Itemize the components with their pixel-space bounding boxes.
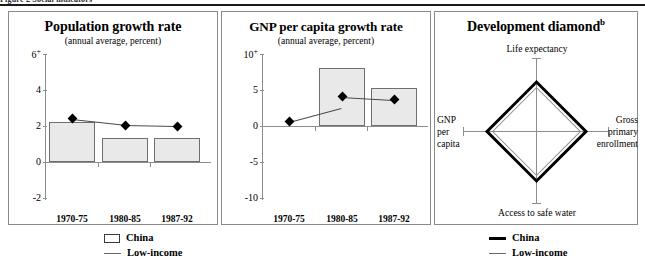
y-label-10: 10+: [230, 50, 258, 60]
y-axis-line-gnp: [262, 54, 263, 200]
x-label-1980-85: 1980-85: [98, 214, 152, 224]
y-label-4: 4: [15, 85, 41, 95]
bar-china-1987-92: [154, 138, 200, 162]
diamond-label-gross-primary-enrollment: Gross primary enrollment: [580, 114, 638, 150]
y-label-6: 6+: [15, 50, 41, 60]
y-tick-2: [43, 126, 47, 127]
y-tick-minus10: [260, 198, 264, 199]
legend-row-lowincome-bar: Low-income: [104, 247, 182, 259]
y-tick-4: [43, 90, 47, 91]
y-tick-5: [260, 90, 264, 91]
y-label-0: 0: [15, 157, 41, 167]
bar-china-1980-85: [102, 138, 148, 162]
marker-lowincome-1980-85: [120, 120, 130, 130]
x-label-1970-75: 1970-75: [45, 214, 99, 224]
y-axis-line-population: [45, 54, 46, 200]
diamond-label-gnp-line1: GNP: [437, 114, 473, 126]
panel-development-diamond: Development diamondb Life expectancy GNP…: [434, 11, 638, 225]
zero-baseline-population: [45, 162, 211, 163]
x-tick-gnp-1: [315, 127, 316, 131]
diamond-label-access-safe-water: Access to safe water: [435, 208, 639, 219]
legend-swatch-china-box-icon: [104, 234, 120, 243]
diamond-label-life-expectancy: Life expectancy: [435, 44, 639, 55]
panel-title-gnp: GNP per capita growth rate: [222, 19, 430, 34]
y-label-minus5: -5: [230, 157, 258, 167]
legend-label-lowincome-bar: Low-income: [127, 247, 182, 259]
y-tick-minus5: [260, 162, 264, 163]
legend-label-china-bar: China: [126, 232, 153, 244]
x-label-gnp-1987-92: 1987-92: [367, 214, 421, 224]
panel-title-population: Population growth rate: [9, 19, 217, 34]
diamond-label-enroll-line1: Gross: [580, 114, 638, 126]
diamond-label-enroll-line2: primary: [580, 126, 638, 138]
legend-row-china-bar: China: [104, 232, 182, 244]
panel-population-growth: Population growth rate (annual average, …: [8, 11, 218, 225]
y-label-2: 2: [15, 121, 41, 131]
panel-subtitle-gnp: (annual average, percent): [222, 36, 430, 47]
y-label-minus2: -2: [15, 193, 41, 203]
x-tick-1: [98, 163, 99, 167]
panel-gnp-growth: GNP per capita growth rate (annual avera…: [221, 11, 431, 225]
legend-swatch-lowincome-thinline-icon: [489, 253, 506, 254]
diamond-axis-cap-top: [532, 58, 541, 59]
diamond-legend: China Low-income: [489, 232, 567, 259]
legend-swatch-lowincome-line-icon: [104, 253, 121, 254]
diamond-label-gnp-per-capita: GNP per capita: [437, 114, 473, 150]
x-label-gnp-1970-75: 1970-75: [262, 214, 316, 224]
bar-china-1970-75: [49, 122, 95, 162]
bar-charts-legend: China Low-income: [104, 232, 182, 259]
diamond-series-lowincome: [492, 87, 581, 176]
y-label-5: 5: [230, 85, 258, 95]
line-lowincome-seg-2: [124, 125, 176, 127]
plot-area-gnp: 10+ 5 0 -5 -10 1970-75 1980-85 1987-92: [252, 50, 428, 200]
diamond-label-gnp-line3: capita: [437, 138, 473, 150]
legend-swatch-china-thickline-icon: [489, 237, 506, 240]
header-rule: [0, 4, 645, 6]
diamond-plot-area: Life expectancy GNP per capita Gross pri…: [435, 12, 637, 224]
diamond-label-gnp-line2: per: [437, 126, 473, 138]
y-tick-minus2: [43, 198, 47, 199]
y-tick-10: [260, 54, 264, 55]
legend-label-lowincome-diamond: Low-income: [512, 247, 567, 259]
y-label-0-gnp: 0: [230, 121, 258, 131]
zero-baseline-gnp: [262, 126, 428, 127]
x-label-gnp-1980-85: 1980-85: [315, 214, 369, 224]
y-label-minus10: -10: [230, 193, 258, 203]
legend-label-china-diamond: China: [512, 232, 539, 244]
legend-row-lowincome-diamond: Low-income: [489, 247, 567, 259]
x-tick-2: [150, 163, 151, 167]
plot-area-population: 6+ 4 2 0 -2 1970-75 1980-85: [35, 50, 211, 200]
charts-container: Population growth rate (annual average, …: [8, 11, 638, 225]
y-tick-6: [43, 54, 47, 55]
x-label-1987-92: 1987-92: [150, 214, 204, 224]
panel-subtitle-population: (annual average, percent): [9, 36, 217, 47]
legend-row-china-diamond: China: [489, 232, 567, 244]
diamond-axis-cap-bottom: [532, 203, 541, 204]
diamond-label-enroll-line3: enrollment: [580, 138, 638, 150]
x-tick-gnp-2: [367, 127, 368, 131]
marker-lowincome-1987-92: [172, 121, 182, 131]
